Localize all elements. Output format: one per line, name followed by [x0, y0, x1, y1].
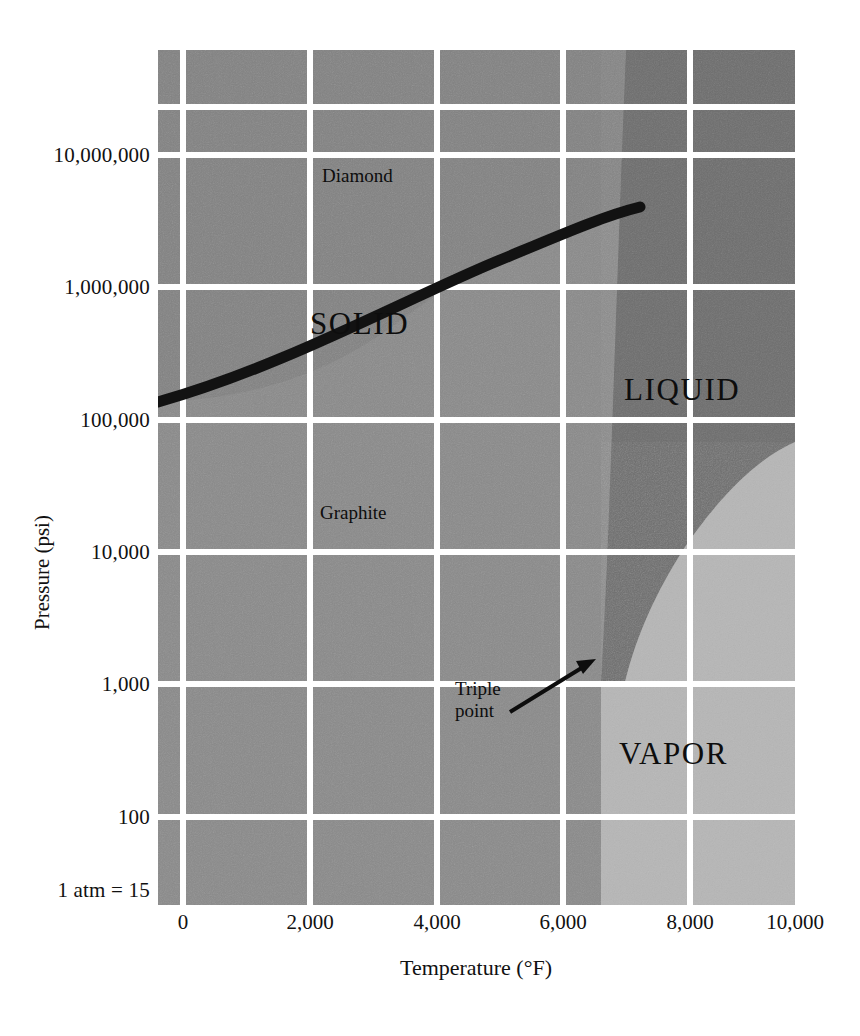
- y-tick-100000: 100,000: [80, 410, 150, 431]
- region-label-liquid: LIQUID: [624, 374, 740, 407]
- x-axis-title: Temperature (°F): [276, 955, 676, 981]
- y-axis-title: Pressure (psi): [30, 473, 55, 673]
- phase-diagram-svg: [158, 50, 795, 905]
- y-axis-base-label: 1 atm = 15: [57, 880, 150, 901]
- region-label-diamond: Diamond: [322, 166, 393, 186]
- x-tick-0: 0: [123, 912, 243, 933]
- y-axis-ticks: 10,000,000 1,000,000 100,000 10,000 1,00…: [0, 0, 150, 1036]
- plot-area: [158, 50, 795, 905]
- y-tick-100: 100: [118, 807, 150, 828]
- region-label-vapor: VAPOR: [619, 738, 728, 771]
- x-tick-2000: 2,000: [250, 912, 370, 933]
- y-tick-1000: 1,000: [102, 674, 150, 695]
- x-tick-4000: 4,000: [377, 912, 497, 933]
- triple-point-line2: point: [455, 700, 501, 722]
- y-tick-10000000: 10,000,000: [54, 145, 151, 166]
- annotation-triple-point: Triple point: [455, 678, 501, 722]
- x-tick-10000: 10,000: [735, 912, 855, 933]
- region-label-solid: SOLID: [310, 308, 409, 341]
- x-tick-6000: 6,000: [503, 912, 623, 933]
- region-label-graphite: Graphite: [320, 503, 386, 523]
- y-tick-10000: 10,000: [91, 542, 150, 563]
- x-tick-8000: 8,000: [630, 912, 750, 933]
- phase-diagram-figure: Diamond SOLID Graphite LIQUID VAPOR Trip…: [0, 0, 860, 1036]
- triple-point-line1: Triple: [455, 678, 501, 700]
- y-tick-1000000: 1,000,000: [64, 277, 150, 298]
